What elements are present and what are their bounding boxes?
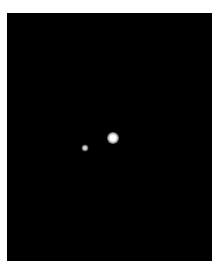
faint-star [82,145,89,152]
bright-star [107,132,119,144]
